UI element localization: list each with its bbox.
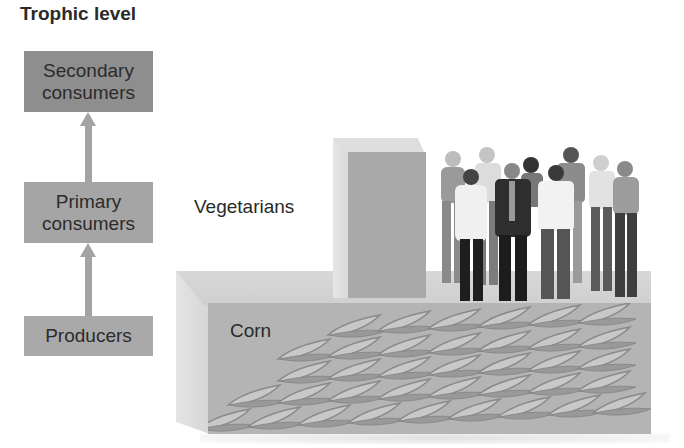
person-icon: [613, 161, 639, 297]
level-box-primary-consumers: Primary consumers: [24, 182, 153, 243]
person-icon: [495, 163, 531, 301]
level-box-producers: Producers: [24, 316, 153, 356]
corn-label: Corn: [230, 320, 271, 342]
vegetarian-block-side: [333, 138, 349, 298]
diagram-title: Trophic level: [20, 3, 136, 25]
arrow-up-icon: [80, 112, 97, 182]
vegetarian-block: [348, 152, 426, 298]
level-label-line: consumers: [42, 213, 135, 235]
level-label-line: Primary: [42, 191, 135, 213]
level-label-line: Producers: [45, 325, 132, 347]
level-label-line: Secondary: [42, 60, 135, 82]
person-icon: [589, 155, 615, 291]
arrow-up-icon: [80, 243, 97, 316]
level-label-line: consumers: [42, 82, 135, 104]
vegetarians-label: Vegetarians: [194, 196, 294, 218]
level-box-secondary-consumers: Secondary consumers: [24, 51, 153, 112]
person-icon: [538, 165, 574, 299]
corn-leaves-icon: [208, 303, 651, 434]
people-group-icon: [425, 145, 655, 305]
